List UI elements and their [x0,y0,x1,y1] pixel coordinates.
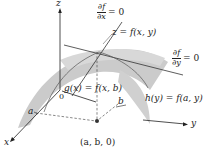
h-curve-label: h(y) = f(a, y) [145,94,203,103]
partial-y-den: ∂y [172,59,181,68]
x-axis-label: x [4,138,9,147]
y-axis-arrow-icon [183,122,188,126]
partial-y-eq: = 0 [183,54,199,63]
partial-x-den: ∂x [97,13,106,22]
diagram-canvas: z x y 0 a b z = f(x, y) g(x) = f(x, b) h… [0,0,210,149]
a-tick-label: a [28,107,33,116]
surface-diagram [0,0,210,149]
point-label: (a, b, 0) [80,138,115,147]
dashed-from-a [36,113,96,121]
partial-x-eq: = 0 [108,8,124,17]
partial-y-label: ∂f ∂y = 0 [172,49,199,67]
partial-x-label: ∂f ∂x = 0 [97,3,124,21]
origin-label: 0 [59,93,64,101]
g-curve-label: g(x) = f(x, b) [64,84,122,93]
point-a-b-0 [95,119,99,123]
y-axis-label: y [191,119,196,128]
z-axis-label: z [56,0,61,8]
z-axis-arrow-icon [58,8,62,13]
surface-label: z = f(x, y) [112,28,156,37]
dashed-from-b [98,104,118,120]
b-tick-label: b [118,97,124,106]
